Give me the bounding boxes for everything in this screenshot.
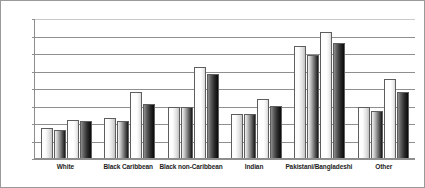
plot-area — [34, 19, 415, 159]
gridline — [35, 159, 415, 160]
bar — [194, 67, 206, 158]
bar — [54, 130, 66, 158]
bar — [104, 118, 116, 158]
bar — [168, 107, 180, 158]
bar — [333, 43, 345, 159]
x-axis-label: Black non-Caribbean — [160, 161, 223, 179]
x-axis-label: Other — [352, 161, 415, 179]
bar-group — [225, 19, 288, 158]
bar-group — [35, 19, 98, 158]
x-axis-label: Black Caribbean — [97, 161, 160, 179]
bar — [371, 111, 383, 158]
x-axis-labels: WhiteBlack CaribbeanBlack non-CaribbeanI… — [34, 161, 415, 179]
bar — [67, 120, 79, 159]
bar — [143, 104, 155, 158]
bar — [80, 121, 92, 158]
x-axis-label: Indian — [223, 161, 286, 179]
y-tick-mark — [32, 159, 35, 160]
bar-groups — [35, 19, 415, 158]
bar-group — [352, 19, 415, 158]
bar — [397, 92, 409, 159]
bar — [358, 107, 370, 158]
bar-group — [98, 19, 161, 158]
bar — [117, 121, 129, 158]
bar — [294, 46, 306, 158]
bar — [307, 55, 319, 158]
bar — [231, 114, 243, 158]
bar-chart: 01020304050607080 WhiteBlack CaribbeanBl… — [0, 0, 425, 188]
bar — [384, 79, 396, 158]
x-axis-label: Pakistani/Bangladeshi — [285, 161, 352, 179]
x-axis-label: White — [34, 161, 97, 179]
bar — [130, 92, 142, 159]
bar-group — [288, 19, 351, 158]
bar — [244, 114, 256, 158]
bar — [41, 128, 53, 158]
bar — [320, 32, 332, 158]
bar — [270, 106, 282, 159]
bar — [207, 74, 219, 158]
bar-group — [162, 19, 225, 158]
bar — [257, 99, 269, 159]
bar — [181, 107, 193, 158]
